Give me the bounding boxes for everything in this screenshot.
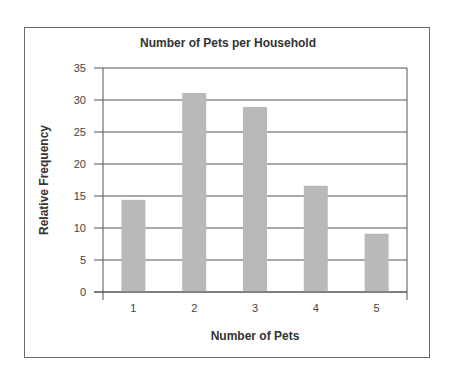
y-tick-label: 0 (80, 286, 86, 298)
bar-4 (304, 186, 328, 292)
x-tick-label: 5 (374, 302, 380, 314)
bar-5 (365, 234, 389, 292)
y-tick-label: 25 (74, 126, 86, 138)
y-tick-label: 15 (74, 190, 86, 202)
y-tick-label: 10 (74, 222, 86, 234)
x-tick-label: 2 (191, 302, 197, 314)
x-tick-label: 1 (130, 302, 136, 314)
x-tick-label: 4 (313, 302, 319, 314)
y-tick-label: 5 (80, 254, 86, 266)
bar-1 (121, 200, 145, 292)
y-tick-label: 35 (74, 62, 86, 74)
bar-3 (243, 107, 267, 292)
bar-2 (182, 93, 206, 292)
x-tick-label: 3 (252, 302, 258, 314)
y-tick-label: 30 (74, 94, 86, 106)
plot-area: 0510152025303512345 (0, 0, 456, 382)
y-tick-label: 20 (74, 158, 86, 170)
